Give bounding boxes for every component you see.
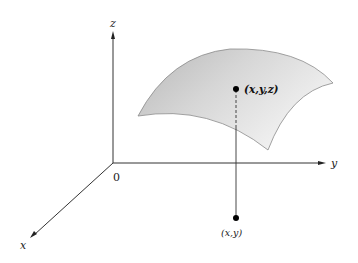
surface-patch [138,49,333,150]
surface-point-label: (x,y,z) [244,83,279,95]
z-axis-arrow-icon [111,31,115,39]
x-axis [30,163,113,238]
y-axis-arrow-icon [318,161,326,165]
z-axis [111,31,115,163]
diagram-canvas: z y x 0 (x,y,z) (x,y) [0,0,358,263]
x-axis-label: x [20,239,27,252]
y-axis-label: y [330,157,338,170]
x-axis-arrow-icon [30,231,37,238]
origin-label: 0 [113,171,120,184]
plane-point-label: (x,y) [221,227,242,238]
y-axis [113,161,326,165]
z-axis-label: z [109,17,116,30]
surface-point [233,86,239,92]
plane-point [233,215,239,221]
